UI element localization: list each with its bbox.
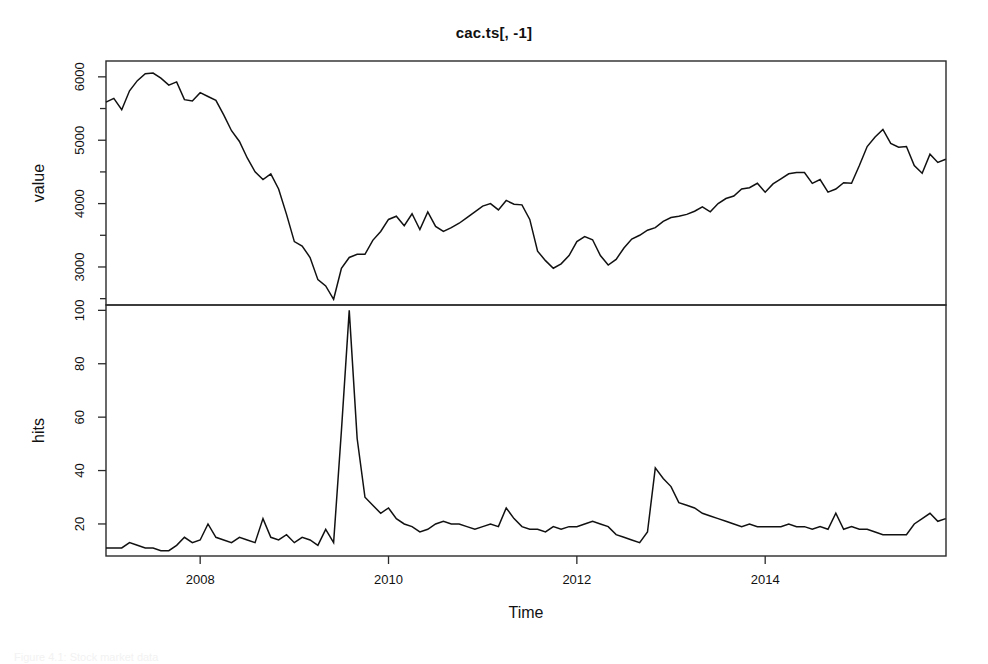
hits-panel-frame bbox=[106, 305, 946, 556]
value-panel-ytick-label: 4000 bbox=[72, 189, 87, 218]
hits-panel-ytick-label: 60 bbox=[72, 410, 87, 424]
x-axis-label: Time bbox=[509, 604, 544, 621]
hits-panel-ytick-label: 80 bbox=[72, 357, 87, 371]
x-tick-label: 2008 bbox=[186, 572, 215, 587]
value-panel: 3000400050006000value bbox=[30, 61, 946, 305]
value-panel-frame bbox=[106, 61, 946, 305]
value-panel-ytick-label: 5000 bbox=[72, 126, 87, 155]
hits-panel-ytick-label: 20 bbox=[72, 517, 87, 531]
value-panel-series-line bbox=[106, 73, 946, 299]
x-tick-label: 2010 bbox=[374, 572, 403, 587]
value-panel-axis-label: value bbox=[30, 164, 47, 202]
x-tick-label: 2012 bbox=[562, 572, 591, 587]
hits-panel-ytick-label: 40 bbox=[72, 463, 87, 477]
x-tick-label: 2014 bbox=[751, 572, 780, 587]
figure-caption: Figure 4.1: Stock market data bbox=[14, 651, 714, 663]
figure-container: cac.ts[, -1] 3000400050006000value204060… bbox=[0, 0, 988, 664]
value-panel-ytick-label: 6000 bbox=[72, 62, 87, 91]
hits-panel: 20406080100hits bbox=[30, 299, 946, 556]
hits-panel-ytick-label: 100 bbox=[72, 299, 87, 321]
hits-panel-axis-label: hits bbox=[30, 418, 47, 443]
hits-panel-series-line bbox=[106, 310, 946, 550]
value-panel-ytick-label: 3000 bbox=[72, 253, 87, 282]
chart-plot-area: 3000400050006000value20406080100hits2008… bbox=[0, 0, 988, 664]
x-axis: 2008201020122014Time bbox=[186, 556, 780, 621]
